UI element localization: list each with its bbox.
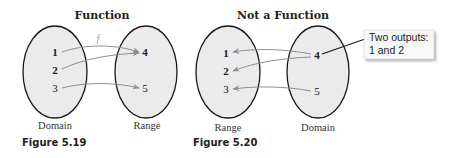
callout-box: Two outputs: 1 and 2: [364, 30, 434, 59]
figure-caption: Figure 5.20: [193, 137, 257, 148]
domain-set-oval: [287, 26, 349, 118]
set-label-domain: Domain: [301, 122, 336, 133]
range-element: 1: [223, 47, 229, 59]
domain-element: 5: [314, 85, 320, 97]
set-label-domain: Domain: [38, 120, 73, 131]
set-label-range: Range: [134, 120, 161, 131]
figure-title: Function: [75, 9, 130, 22]
domain-element: 3: [52, 82, 58, 94]
set-label-range: Range: [215, 122, 242, 133]
range-element: 3: [223, 83, 229, 95]
figure-function: Function f 1 2 3 4 5 Domain Range Figure…: [22, 9, 177, 148]
diagram-canvas: Function f 1 2 3 4 5 Domain Range Figure…: [0, 0, 459, 158]
range-element: 4: [142, 46, 148, 58]
figure-caption: Figure 5.19: [22, 137, 86, 148]
domain-element: 2: [52, 64, 58, 76]
range-set-oval: [115, 26, 177, 118]
callout-line-1: Two outputs:: [369, 31, 429, 43]
domain-element: 4: [314, 49, 320, 61]
range-element: 5: [142, 82, 148, 94]
figure-title: Not a Function: [237, 9, 329, 22]
function-name-label: f: [97, 33, 101, 44]
callout-line-2: 1 and 2: [369, 44, 404, 56]
range-element: 2: [223, 65, 229, 77]
domain-element: 1: [52, 46, 58, 58]
figure-not-a-function: Not a Function 1 2 3 4 5 Two outputs: 1 …: [193, 9, 434, 148]
